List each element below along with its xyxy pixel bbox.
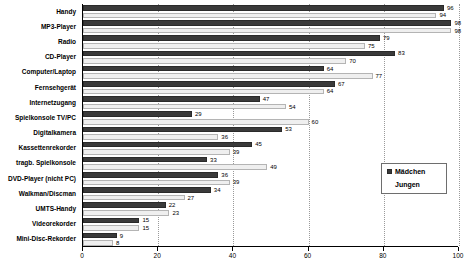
category-label: Walkman/Discman [19, 191, 76, 198]
bar-slot: 96 [83, 4, 458, 12]
bar-group: 4754 [83, 95, 458, 110]
x-axis: 020406080100 [82, 247, 458, 267]
bar-value-label: 94 [436, 12, 446, 18]
bar-maedchen [83, 5, 444, 11]
bar-maedchen [83, 233, 117, 239]
bar-slot: 64 [83, 65, 458, 73]
bar-slot: 54 [83, 103, 458, 111]
bar-jungen [83, 28, 451, 34]
plot-area: 9694989879758370647767644754296053364539… [82, 4, 458, 247]
bar-value-label: 29 [192, 111, 202, 117]
bar-value-label: 77 [373, 73, 383, 79]
bar-maedchen [83, 35, 380, 41]
bar-maedchen [83, 96, 260, 102]
bar-slot: 9 [83, 232, 458, 240]
x-tick-label: 40 [229, 253, 236, 260]
bar-value-label: 45 [252, 141, 262, 147]
x-tick-mark [383, 247, 384, 251]
legend-swatch-jungen-icon [387, 182, 392, 187]
bar-value-label: 23 [169, 210, 179, 216]
category-axis-labels: HandyMP3-PlayerRadioCD-PlayerComputer/La… [0, 4, 79, 247]
bar-value-label: 49 [267, 164, 277, 170]
bar-value-label: 36 [218, 172, 228, 178]
category-label: Kassettenrekorder [19, 145, 76, 152]
bar-value-label: 64 [324, 66, 334, 72]
bar-value-label: 8 [113, 240, 119, 246]
x-tick-mark [232, 247, 233, 251]
x-tick-mark [458, 247, 459, 251]
bar-maedchen [83, 142, 252, 148]
category-label: Internetzugang [29, 99, 76, 106]
category-label: DVD-Player (nicht PC) [8, 175, 76, 182]
bar-slot: 98 [83, 27, 458, 35]
x-tick-label: 80 [379, 253, 386, 260]
bar-slot: 83 [83, 50, 458, 58]
category-label: Fernsehgerät [35, 84, 76, 91]
bar-maedchen [83, 20, 451, 26]
bar-slot: 60 [83, 118, 458, 126]
bar-jungen [83, 43, 365, 49]
bar-slot: 22 [83, 201, 458, 209]
bar-group: 2960 [83, 110, 458, 125]
bar-maedchen [83, 157, 207, 163]
bar-jungen [83, 134, 218, 140]
bar-maedchen [83, 51, 395, 57]
bar-value-label: 15 [139, 225, 149, 231]
bar-jungen [83, 164, 267, 170]
bar-jungen [83, 149, 230, 155]
category-label: MP3-Player [41, 24, 76, 31]
bar-value-label: 47 [260, 96, 270, 102]
bar-slot: 64 [83, 88, 458, 96]
x-tick-mark [157, 247, 158, 251]
bar-group: 1515 [83, 217, 458, 232]
bar-group: 2223 [83, 201, 458, 216]
bar-slot: 39 [83, 148, 458, 156]
bar-value-label: 79 [380, 35, 390, 41]
bar-jungen [83, 104, 286, 110]
bar-group: 9694 [83, 4, 458, 19]
x-tick-mark [82, 247, 83, 251]
bar-jungen [83, 119, 309, 125]
bar-value-label: 98 [451, 28, 461, 34]
bar-jungen [83, 180, 230, 186]
bar-value-label: 39 [230, 149, 240, 155]
bar-jungen [83, 195, 185, 201]
bar-value-label: 34 [211, 187, 221, 193]
legend-label-maedchen: Mädchen [395, 168, 425, 175]
bar-jungen [83, 240, 113, 246]
x-tick-label: 100 [453, 253, 464, 260]
legend-item-jungen: Jungen [387, 181, 441, 188]
bar-value-label: 83 [395, 50, 405, 56]
bar-value-label: 53 [282, 126, 292, 132]
bar-jungen [83, 73, 373, 79]
bar-maedchen [83, 81, 335, 87]
bar-value-label: 96 [444, 5, 454, 11]
bar-group: 6477 [83, 65, 458, 80]
bar-value-label: 27 [185, 195, 195, 201]
bar-group: 8370 [83, 50, 458, 65]
bar-jungen [83, 13, 436, 19]
bar-group: 9898 [83, 19, 458, 34]
category-label: Videorekorder [32, 221, 76, 228]
bar-slot: 70 [83, 57, 458, 65]
bar-slot: 15 [83, 217, 458, 225]
bar-slot: 77 [83, 72, 458, 80]
legend-label-jungen: Jungen [395, 181, 420, 188]
bar-jungen [83, 58, 346, 64]
bar-group: 5336 [83, 126, 458, 141]
bar-group: 98 [83, 232, 458, 247]
bar-slot: 53 [83, 126, 458, 134]
bar-slot: 79 [83, 34, 458, 42]
legend-item-maedchen: Mädchen [387, 168, 441, 175]
legend-swatch-maedchen-icon [387, 169, 392, 174]
category-label: Handy [56, 8, 76, 15]
bar-slot: 15 [83, 224, 458, 232]
bar-value-label: 64 [324, 88, 334, 94]
bar-value-label: 98 [451, 20, 461, 26]
bar-group: 7975 [83, 34, 458, 49]
category-label: Digitalkamera [33, 130, 76, 137]
bar-group: 4539 [83, 141, 458, 156]
bar-slot: 75 [83, 42, 458, 50]
bar-jungen [83, 210, 169, 216]
category-label: Mini-Disc-Rekorder [16, 236, 76, 243]
